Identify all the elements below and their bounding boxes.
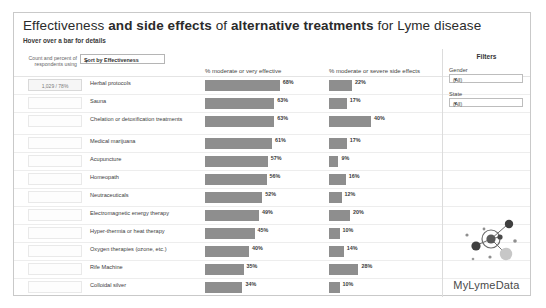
row-count-box [28,263,82,275]
treatment-label: Rife Machine [90,264,195,271]
bar-side-effects[interactable] [329,282,340,293]
bar-value-side-effects: 9% [341,155,349,161]
treatment-label: Colloidal silver [90,282,195,289]
bar-side-effects[interactable] [329,98,347,109]
bar-effectiveness[interactable] [205,156,268,167]
treatment-label: Acupuncture [90,156,195,163]
bar-effectiveness[interactable] [205,246,249,257]
bar-value-side-effects: 16% [349,173,360,179]
row-count-box [28,115,82,127]
bar-effectiveness[interactable] [205,116,274,127]
column-header-effectiveness: % moderate or very effective [205,68,281,74]
bar-value-side-effects: 12% [345,191,356,197]
gender-filter-select[interactable]: (All) ▼ [449,74,523,83]
bar-value-effectiveness: 56% [270,173,281,179]
state-filter-select[interactable]: (All) ▼ [449,98,523,107]
bar-effectiveness[interactable] [205,264,244,275]
bar-side-effects[interactable] [329,156,338,167]
treatment-label: Medical marijuana [90,138,195,145]
bar-effectiveness[interactable] [205,98,274,109]
bar-effectiveness[interactable] [205,174,267,185]
bar-value-side-effects: 28% [361,263,372,269]
dashboard-panel: Effectiveness and side effects of altern… [13,12,531,296]
title-segment-4: alternative treatments [231,18,377,33]
bar-effectiveness[interactable] [205,210,259,221]
row-count-box: 1,029 / 78% [28,79,82,91]
bar-side-effects[interactable] [329,138,347,149]
bar-side-effects[interactable] [329,246,344,257]
bar-side-effects[interactable] [329,210,350,221]
bar-side-effects[interactable] [329,80,352,91]
treatment-label: Chelation or detoxification treatments [90,116,195,123]
filters-panel: Filters Gender (All) ▼ State (All) ▼ [442,49,530,297]
bar-value-side-effects: 20% [353,209,364,215]
column-header-side-effects: % moderate or severe side effects [329,68,420,74]
treatment-label: Sauna [90,98,195,105]
bar-value-effectiveness: 61% [275,137,286,143]
filters-title: Filters [443,53,530,60]
row-count-box [28,245,82,257]
bar-effectiveness[interactable] [205,192,262,203]
title-segment-5: for Lyme disease [377,18,481,33]
bar-value-side-effects: 14% [347,245,358,251]
bar-side-effects[interactable] [329,228,340,239]
bar-value-effectiveness: 35% [247,263,258,269]
chevron-down-icon: ▼ [84,58,160,64]
title-segment-3: of [216,18,231,33]
state-filter-label: State [449,91,462,97]
bar-value-side-effects: 40% [374,115,385,121]
bar-effectiveness[interactable] [205,80,280,91]
page-subtitle: Hover over a bar for details [23,37,106,44]
bar-value-effectiveness: 63% [277,115,288,121]
bar-value-effectiveness: 52% [265,191,276,197]
bar-value-side-effects: 22% [355,79,366,85]
bar-effectiveness[interactable] [205,138,272,149]
chevron-down-icon: ▼ [453,101,518,106]
bar-value-side-effects: 10% [343,281,354,287]
treatment-label: Homeopath [90,174,195,181]
bar-side-effects[interactable] [329,116,371,127]
molecule-network-icon [447,217,526,269]
brand-logo: MyLymeData [447,217,526,291]
count-column-label: Count and percent of respondents using [19,55,77,68]
row-count-box [28,155,82,167]
gender-filter-label: Gender [449,67,468,73]
bar-value-effectiveness: 68% [283,79,294,85]
row-count-box [28,137,82,149]
bar-value-effectiveness: 40% [252,245,263,251]
treatment-label: Oxygen therapies (ozone, etc.) [90,246,195,253]
page-title: Effectiveness and side effects of altern… [23,18,481,33]
bar-value-effectiveness: 45% [258,227,269,233]
bar-value-side-effects: 10% [343,227,354,233]
treatment-label: Hyper-thermia or heat therapy [90,228,195,235]
bar-value-effectiveness: 63% [277,97,288,103]
bar-value-side-effects: 17% [350,97,361,103]
row-count-box [28,281,82,293]
brand-name: MyLymeData [447,279,526,291]
chevron-down-icon: ▼ [453,77,518,82]
bar-side-effects[interactable] [329,264,358,275]
bar-value-effectiveness: 34% [245,281,256,287]
bar-value-effectiveness: 49% [262,209,273,215]
treatment-label: Electromagnetic energy therapy [90,210,195,217]
bar-effectiveness[interactable] [205,282,242,293]
bar-effectiveness[interactable] [205,228,255,239]
treatment-label: Herbal protocols [90,80,195,87]
row-count-value: 1,029 / 78% [29,83,81,89]
bar-side-effects[interactable] [329,192,342,203]
bar-side-effects[interactable] [329,174,346,185]
treatment-label: Neutraceuticals [90,192,195,199]
row-count-box [28,97,82,109]
bar-value-side-effects: 17% [350,137,361,143]
row-count-box [28,209,82,221]
row-count-box [28,191,82,203]
bar-value-effectiveness: 57% [271,155,282,161]
sort-dropdown[interactable]: Sort by Effectiveness ▼ [80,54,165,64]
title-segment-2: and side effects [108,18,216,33]
row-count-box [28,227,82,239]
row-count-box [28,173,82,185]
title-segment-1: Effectiveness [23,18,108,33]
